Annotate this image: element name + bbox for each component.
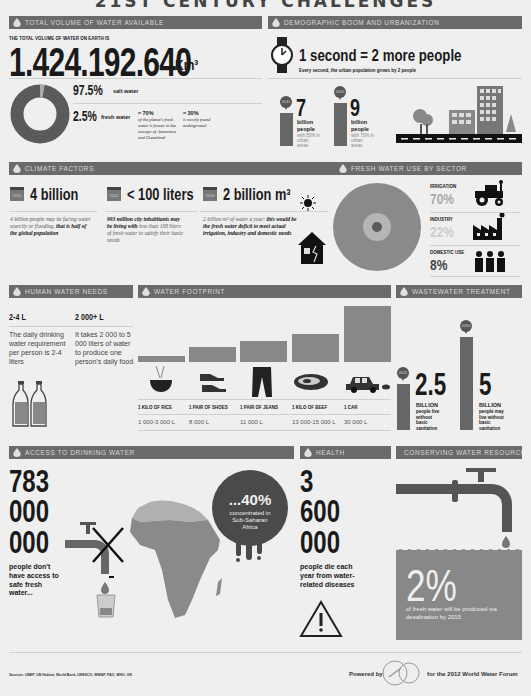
steak-icon: [293, 373, 329, 391]
demographic-headline: 1 second = 2 more people: [299, 46, 461, 66]
section-header-wastewater: WASTEWATER TREATMENT: [396, 285, 522, 298]
daily-drinking-text: The daily drinking water requirement per…: [9, 330, 67, 366]
section-header-conserving: CONSERVING WATER RESOURCES: [396, 446, 522, 459]
water-drop-icon: [400, 287, 408, 296]
sector-label-irrigation: IRRIGATION: [430, 184, 456, 190]
population-value-2011: 7: [296, 94, 306, 122]
water-bottles-icon: [12, 380, 48, 428]
section-header-label: HUMAN WATER NEEDS: [25, 288, 108, 295]
climate-text-2: 993 million city inhabitants may be livi…: [107, 216, 185, 245]
tractor-icon: [473, 180, 507, 207]
water-drop-icon: [13, 448, 21, 457]
sub-saharan-text: ...40% concentrated in Sub-Saharan Afric…: [210, 491, 290, 532]
year-marker-2011: 2011: [280, 96, 292, 108]
frozen-pct: ≈ 70%: [138, 110, 154, 117]
year-marker-2050: 2050: [460, 320, 472, 332]
water-drop-icon: [272, 18, 280, 27]
footprint-value-rice: 1 000-3 000 L: [138, 419, 175, 425]
climate-value-2: < 100 liters: [127, 186, 194, 204]
broken-tap-icon: [65, 520, 135, 620]
sponsor-logo: [381, 659, 421, 687]
footprint-value-shoes: 8 000 L: [189, 419, 209, 425]
section-header-access: ACCESS TO DRINKING WATER: [9, 446, 294, 459]
fresh-water-label: fresh water: [101, 114, 130, 121]
population-note-2011: with 50% in urban areas: [297, 133, 321, 148]
climate-text-1: 4 billion people may be facing water sca…: [10, 216, 92, 237]
water-drop-icon: [13, 287, 21, 296]
climate-text-3: 2 billion m³ of water a year: this would…: [203, 216, 303, 237]
shoes-icon: [198, 372, 228, 394]
population-value-2050: 9: [350, 94, 360, 122]
population-bar-2050: [334, 103, 347, 146]
sector-circle-chart: [332, 182, 422, 272]
infographic-title: 21ST CENTURY CHALLENGES: [0, 0, 531, 11]
section-header-human-needs: HUMAN WATER NEEDS: [9, 285, 133, 298]
city-skyline-icon: [396, 82, 522, 148]
calendar-icon: 2030: [203, 187, 217, 201]
footprint-bar-shoes: [189, 347, 236, 362]
climate-value-1: 4 billion: [30, 186, 78, 204]
jeans-icon: [251, 367, 273, 397]
sub-saharan-label: concentrated in Sub-Saharan Africa: [225, 510, 275, 532]
sector-pct-domestic: 8%: [430, 256, 447, 273]
daily-drinking-value: 2-4 L: [9, 312, 26, 322]
section-header-label: HEALTH: [316, 449, 345, 456]
population-unit-2050: billion people: [351, 119, 371, 133]
sun-icon: [300, 195, 316, 211]
powered-by-label: Powered by: [349, 671, 383, 677]
damaged-house-icon: [298, 232, 326, 264]
sanitation-bar-2050: [460, 337, 473, 430]
sector-pct-industry: 22%: [430, 223, 454, 240]
desalination-pct: 2%: [406, 561, 457, 611]
calendar-icon: 2025: [107, 187, 121, 201]
sanitation-text-2011: people live without basic sanitation: [416, 409, 442, 432]
water-drop-icon: [13, 164, 21, 173]
people-icon: [474, 250, 506, 272]
sanitation-unit-2011: BILLION: [416, 402, 438, 409]
water-wave: [396, 545, 522, 553]
section-header-label: CLIMATE FACTORS: [25, 165, 94, 172]
section-header-health: HEALTH: [300, 446, 391, 459]
sources-text: Sources: UNEP, UN Habitat, World Bank, U…: [9, 673, 132, 677]
population-unit-2011: billion people: [297, 119, 317, 133]
section-header-total-volume: TOTAL VOLUME OF WATER AVAILABLE: [9, 16, 262, 29]
water-drop-icon: [142, 287, 150, 296]
section-header-footprint: WATER FOOTPRINT: [138, 285, 391, 298]
salt-fresh-donut-chart: [10, 83, 70, 145]
salt-water-label: salt water: [113, 88, 138, 95]
factory-icon: [473, 213, 507, 240]
daily-food-text: It takes 2 000 to 5 000 liters of water …: [75, 330, 137, 366]
sector-label-industry: INDUSTRY: [430, 217, 453, 223]
section-header-sector: FRESH WATER USE BY SECTOR: [335, 162, 522, 175]
rice-bowl-icon: [148, 366, 174, 394]
forum-text: for the 2012 World Water Forum: [427, 671, 518, 677]
footprint-label-rice: 1 KILO OF RICE: [138, 405, 172, 411]
car-icon: [345, 375, 391, 393]
calendar-icon: 2025: [10, 187, 24, 201]
salt-water-pct: 97.5%: [73, 82, 103, 98]
section-header-label: WASTEWATER TREATMENT: [412, 288, 511, 295]
climate-value-3: 2 billion m³: [223, 186, 291, 204]
sanitation-value-2011: 2.5: [415, 366, 446, 403]
footprint-bar-jeans: [240, 341, 287, 362]
footprint-label-car: 1 CAR: [344, 405, 358, 411]
underground-pct: ≈ 30%: [183, 110, 199, 117]
sanitation-unit-2050: BILLION: [479, 402, 501, 409]
desalination-text: of fresh water will be produced via desa…: [406, 606, 501, 622]
total-volume-unit: Km³: [175, 56, 198, 73]
wristwatch-icon: [271, 37, 293, 73]
disease-deaths-text: people die each year from water-related …: [300, 563, 365, 589]
daily-food-value: 2 000+ L: [75, 312, 104, 322]
footprint-label-beef: 1 KILO OF BEEF: [292, 405, 327, 411]
footprint-bar-rice: [138, 356, 185, 362]
disease-deaths-count: 3600000: [300, 466, 340, 557]
water-drop-icon: [304, 448, 312, 457]
section-header-demographic: DEMOGRAPHIC BOOM AND URBANIZATION: [268, 16, 522, 29]
sanitation-bar-2011: [397, 384, 410, 430]
water-drop-icon: [13, 18, 21, 27]
sanitation-value-2050: 5: [479, 366, 491, 403]
section-header-label: FRESH WATER USE BY SECTOR: [351, 165, 467, 172]
total-volume-value: 1.424.192.640: [9, 42, 191, 82]
population-note-2050: with 70% in urban areas: [351, 133, 375, 148]
footprint-value-jeans: 11 000 L: [240, 419, 263, 425]
